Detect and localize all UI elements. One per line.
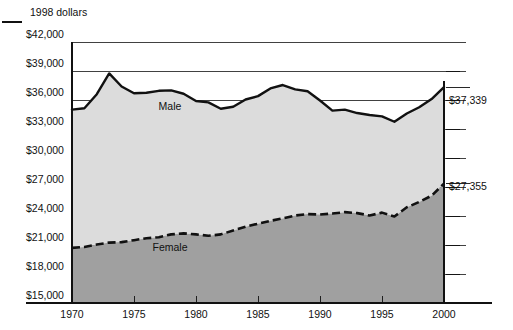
chart-container: 1998 dollars $15,000$18,000$21,000$24,00… [0, 0, 513, 330]
x-tick-label: 1990 [308, 308, 332, 320]
y-tick-label: $39,000 [26, 57, 64, 69]
y-tick-label: $21,000 [26, 231, 64, 243]
x-tick-label: 1970 [60, 308, 84, 320]
y-tick-label: $27,000 [26, 173, 64, 185]
x-tick-label: 1980 [184, 308, 208, 320]
series-label-female: Female [152, 241, 187, 253]
y-tick-label: $24,000 [26, 202, 64, 214]
endpoint-label-male: $37,339 [449, 94, 487, 106]
y-tick-label: $36,000 [26, 86, 64, 98]
y-tick-label: $18,000 [26, 260, 64, 272]
series-label-male: Male [159, 100, 182, 112]
earnings-area-chart: 1998 dollars $15,000$18,000$21,000$24,00… [0, 0, 513, 330]
unit-note-label: 1998 dollars [30, 6, 87, 18]
y-tick-label: $30,000 [26, 144, 64, 156]
x-tick-label: 1985 [246, 308, 270, 320]
y-tick-label: $15,000 [26, 289, 64, 301]
endpoint-label-female: $27,355 [449, 180, 487, 192]
x-tick-label: 1995 [370, 308, 394, 320]
x-tick-label: 2000 [432, 308, 456, 320]
y-tick-label: $33,000 [26, 115, 64, 127]
y-tick-label: $42,000 [26, 28, 64, 40]
x-tick-label: 1975 [122, 308, 146, 320]
